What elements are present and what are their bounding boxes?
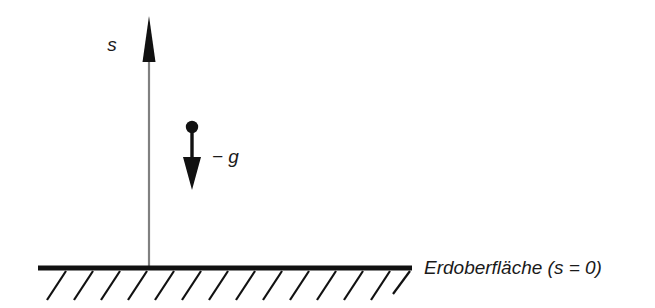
hatch-mark [128,271,147,300]
hatch-mark [317,271,336,300]
physics-diagram: s − g Erdoberfläche (s [0,0,655,308]
hatch-mark [290,271,309,300]
hatch-mark [74,271,93,300]
diagram-canvas: s − g Erdoberfläche (s [0,0,655,308]
hatch-mark [344,271,363,300]
ground-label: Erdoberfläche (s = 0) [424,257,602,278]
s-axis-label: s [107,34,117,55]
hatch-mark [236,271,255,300]
ground-hatching [47,271,410,300]
hatch-mark [155,271,174,300]
s-axis-arrowhead-icon [143,16,156,62]
hatch-mark [101,271,120,300]
hatch-mark [393,271,410,294]
acceleration-arrowhead-icon [183,157,201,190]
hatch-mark [263,271,282,300]
hatch-mark [371,271,390,300]
hatch-mark [209,271,228,300]
hatch-mark [182,271,201,300]
hatch-mark [47,271,66,300]
acceleration-label: − g [212,146,239,167]
